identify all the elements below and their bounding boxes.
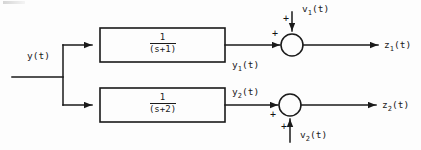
upper-output-label: z1(t) bbox=[384, 40, 411, 50]
diagram-vector-layer bbox=[0, 0, 421, 150]
upper-summer-disturbance-sign: + bbox=[283, 14, 289, 24]
lower-output-label: z2(t) bbox=[382, 100, 409, 110]
lower-block-denominator: (s+2) bbox=[134, 105, 191, 114]
lower-disturbance-suffix: (t) bbox=[310, 129, 327, 140]
lower-output-suffix: (t) bbox=[392, 99, 409, 110]
lower-intermediate-label: y2(t) bbox=[232, 87, 259, 97]
lower-intermediate-suffix: (t) bbox=[242, 86, 259, 97]
upper-summing-junction bbox=[281, 34, 303, 56]
upper-block-numerator: 1 bbox=[134, 33, 191, 42]
lower-summer-main-sign: + bbox=[270, 110, 276, 120]
input-label: y(t) bbox=[27, 51, 50, 61]
upper-disturbance-label: v1(t) bbox=[302, 4, 329, 14]
upper-output-suffix: (t) bbox=[394, 39, 411, 50]
lower-block-expression: 1 (s+2) bbox=[134, 93, 191, 115]
upper-disturbance-suffix: (t) bbox=[312, 3, 329, 14]
block-diagram-canvas: y(t) 1 (s+1) 1 (s+2) y1(t) y2(t) v1(t) v… bbox=[0, 0, 421, 150]
upper-intermediate-suffix: (t) bbox=[242, 59, 259, 70]
lower-summing-junction bbox=[279, 94, 301, 116]
upper-block-denominator: (s+1) bbox=[134, 45, 191, 54]
lower-block-numerator: 1 bbox=[134, 93, 191, 102]
upper-block-expression: 1 (s+1) bbox=[134, 33, 191, 55]
lower-summer-disturbance-sign: + bbox=[281, 122, 287, 132]
upper-intermediate-label: y1(t) bbox=[232, 60, 259, 70]
upper-summer-main-sign: + bbox=[272, 29, 278, 39]
lower-disturbance-label: v2(t) bbox=[300, 130, 327, 140]
